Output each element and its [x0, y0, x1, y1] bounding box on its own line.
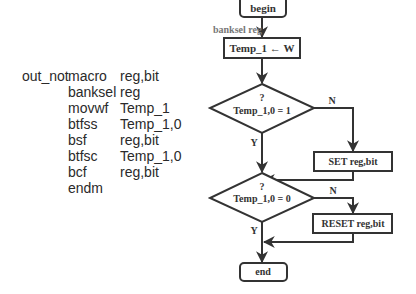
decision2-no-label: N — [329, 185, 337, 196]
set-label: SET reg,bit — [328, 156, 378, 167]
banksel-annotation: banksel reg — [213, 24, 262, 35]
decision2-question: ? — [260, 181, 265, 192]
decision1-question: ? — [260, 92, 265, 103]
reset-label: RESET reg,bit — [322, 218, 386, 229]
flowchart: begin banksel reg Temp_1 ← W ? Temp_1,0 … — [0, 0, 416, 294]
begin-label: begin — [250, 2, 276, 14]
decision2-condition: Temp_1,0 = 0 — [233, 193, 290, 204]
decision1-condition: Temp_1,0 = 1 — [233, 105, 290, 116]
decision2-yes-label: Y — [250, 225, 258, 236]
assign-label: Temp_1 ← W — [230, 42, 295, 54]
decision1-yes-label: Y — [250, 137, 258, 148]
decision1-no-label: N — [328, 95, 336, 106]
end-label: end — [255, 266, 271, 277]
